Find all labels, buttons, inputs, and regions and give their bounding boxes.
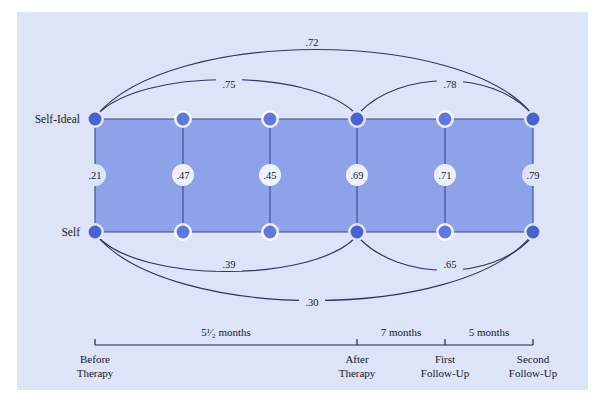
node-self-2 (174, 223, 192, 241)
vertical-value-5: .71 (438, 170, 451, 181)
timepoint-before-therapy-line2: Therapy (77, 367, 114, 379)
arc-top-1-6-label: .72 (305, 37, 318, 48)
node-self-ideal-3 (261, 110, 279, 128)
arc-bottom-1-4-label: .39 (222, 259, 235, 270)
timepoint-second-follow-up-line1: Second (517, 353, 550, 365)
node-self-5 (436, 223, 454, 241)
timepoint-first-follow-up-line1: First (435, 353, 455, 365)
figure-root: .72 .75 .78 .39 .65 .30 .21 (0, 0, 604, 413)
node-self-ideal-2 (174, 110, 192, 128)
row-label-self-ideal: Self-Ideal (35, 113, 80, 125)
arc-top-1-4-label: .75 (222, 79, 235, 90)
node-self-4 (348, 223, 366, 241)
timepoint-first-follow-up-line2: Follow-Up (421, 367, 470, 379)
node-self-ideal-1 (86, 110, 104, 128)
arc-bottom-4-6-label: .65 (443, 259, 456, 270)
node-self-6 (524, 223, 542, 241)
arc-top-4-6-label: .78 (443, 79, 456, 90)
interval-label-2: 7 months (381, 326, 422, 338)
node-self-1 (86, 223, 104, 241)
timepoint-before-therapy-line1: Before (80, 353, 110, 365)
arc-bottom-1-6-label: .30 (305, 297, 318, 308)
interval-label-1: 5¹⁄₂ months (201, 326, 251, 338)
node-self-ideal-6 (524, 110, 542, 128)
timepoint-second-follow-up-line2: Follow-Up (509, 367, 558, 379)
node-self-ideal-5 (436, 110, 454, 128)
interval-label-3: 5 months (469, 326, 510, 338)
vertical-value-3: .45 (263, 170, 276, 181)
node-self-3 (261, 223, 279, 241)
correlation-path-diagram: .72 .75 .78 .39 .65 .30 .21 (0, 0, 604, 413)
vertical-value-4: .69 (350, 170, 363, 181)
vertical-value-1: .21 (88, 170, 101, 181)
timepoint-after-therapy-line2: Therapy (339, 367, 376, 379)
row-label-self: Self (61, 226, 80, 238)
vertical-value-2: .47 (176, 170, 189, 181)
vertical-value-6: .79 (526, 170, 539, 181)
timepoint-after-therapy-line1: After (345, 353, 369, 365)
shaded-band (95, 119, 533, 232)
node-self-ideal-4 (348, 110, 366, 128)
